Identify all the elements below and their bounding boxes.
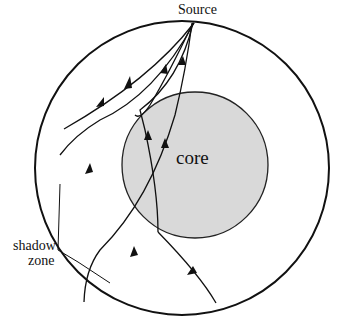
shadow-zone-label-line1: shadow: [13, 238, 56, 254]
earth-diagram: Source core shadow zone: [0, 0, 341, 316]
shadow-zone-bracket: [58, 184, 110, 283]
core-label: core: [176, 147, 209, 169]
shadow-zone-label-line2: zone: [28, 253, 54, 269]
source-label: Source: [178, 2, 217, 18]
